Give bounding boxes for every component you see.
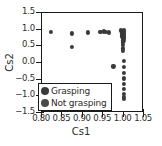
data-point [70,31,74,35]
data-point [122,82,126,86]
data-point [111,64,115,68]
y-axis-label-container: Cs2 [2,0,16,124]
data-point [122,87,126,91]
data-point [122,59,126,63]
data-point [122,65,126,69]
y-tick-label: −1.0 [15,90,35,99]
x-axis-label: Cs1 [0,126,162,137]
x-tick-label: 0.95 [93,114,111,123]
legend-marker-circle-icon [41,87,49,95]
x-tick-label: 1.05 [134,114,152,123]
data-point [86,30,90,34]
x-tick-label: 0.80 [32,114,50,123]
y-tick-label: −0.5 [15,74,35,83]
legend-item-label: Grasping [51,86,90,96]
data-point [49,30,53,34]
scatter-plot-figure: Cs2 1.51.00.50.0−0.5−1.0−1.50.800.850.90… [0,0,162,146]
y-axis-label: Cs2 [4,53,15,72]
data-point [122,76,126,80]
data-point [70,45,74,49]
data-point [122,97,126,101]
chart-legend: GraspingNot grasping [38,83,112,111]
data-point [106,30,110,34]
legend-item[interactable]: Not grasping [41,97,109,109]
y-tick-label: 0.0 [22,57,35,66]
legend-item[interactable]: Grasping [41,85,109,97]
legend-marker-circle-icon [41,99,49,107]
y-tick-label: 0.5 [22,40,35,49]
y-tick-label: 1.5 [22,7,35,16]
x-tick-label: 0.85 [53,114,71,123]
x-tick-label: 1.00 [114,114,132,123]
data-point [122,71,126,75]
x-tick-label: 0.90 [73,114,91,123]
legend-item-label: Not grasping [51,98,106,108]
data-point [121,49,125,53]
x-tick-mark-inner [143,109,144,112]
y-tick-label: 1.0 [22,24,35,33]
